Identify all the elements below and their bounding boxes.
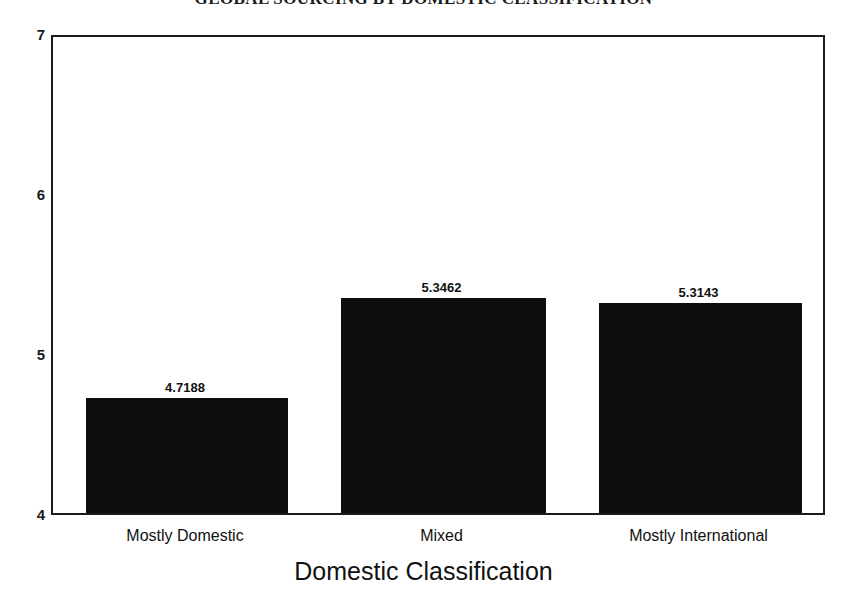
x-axis-title: Domestic Classification: [0, 556, 847, 586]
x-tick-label-mixed: Mixed: [299, 527, 584, 545]
y-tick-label-5: 5: [9, 347, 45, 362]
chart-figure: GLOBAL SOURCING BY DOMESTIC CLASSIFICATI…: [0, 0, 847, 596]
bar-mostly-international: [599, 303, 802, 513]
y-tick-label-7: 7: [9, 27, 45, 42]
plot-area: [51, 35, 825, 515]
y-tick-label-6: 6: [9, 187, 45, 202]
chart-title: GLOBAL SOURCING BY DOMESTIC CLASSIFICATI…: [0, 0, 847, 8]
bar-value-mostly-domestic: 4.7188: [84, 381, 286, 395]
y-axis: 7 6 5 4: [0, 0, 45, 596]
y-tick-label-4: 4: [9, 507, 45, 522]
x-tick-label-mostly-domestic: Mostly Domestic: [44, 527, 326, 545]
bar-value-mostly-international: 5.3143: [597, 286, 800, 300]
bar-value-mixed: 5.3462: [339, 281, 544, 295]
bar-mostly-domestic: [86, 398, 288, 513]
x-tick-label-mostly-international: Mostly International: [557, 527, 840, 545]
bar-mixed: [341, 298, 546, 513]
